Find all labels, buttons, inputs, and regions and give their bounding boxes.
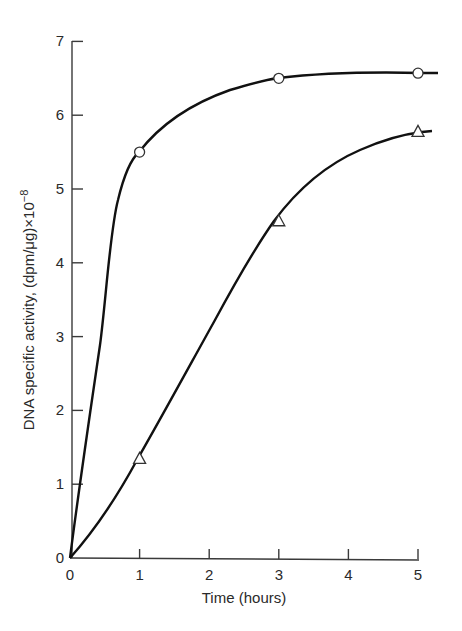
x-tick-label: 4: [344, 566, 352, 583]
triangle-series-curve: [70, 131, 432, 558]
x-tick-label: 0: [66, 566, 74, 583]
x-tick-label: 3: [275, 566, 283, 583]
circle-marker: [274, 73, 284, 83]
y-tick-label: 0: [56, 549, 64, 566]
y-tick-label: 4: [56, 254, 64, 271]
y-axis-label-main: DNA specific activity, (dpm/μg)×10: [20, 202, 37, 430]
axes: [70, 41, 419, 560]
x-tick-label: 5: [414, 566, 422, 583]
y-axis-label: DNA specific activity, (dpm/μg)×10−8: [18, 190, 37, 431]
y-tick-label: 2: [56, 401, 64, 418]
circle-marker: [135, 147, 145, 157]
y-tick-label: 7: [56, 32, 64, 49]
y-tick-label: 6: [56, 106, 64, 123]
x-tick-label: 2: [205, 566, 213, 583]
x-axis-label: Time (hours): [202, 589, 286, 606]
y-tick-label: 3: [56, 328, 64, 345]
circle-marker: [413, 68, 423, 78]
circle-series-curve: [70, 73, 438, 558]
y-axis-label-exponent: −8: [18, 190, 30, 203]
y-tick-label: 5: [56, 180, 64, 197]
x-tick-label: 1: [135, 566, 143, 583]
labels: Time (hours) DNA specific activity, (dpm…: [18, 190, 286, 606]
y-tick-label: 1: [56, 475, 64, 492]
x-ticks: 012345: [66, 549, 422, 583]
triangle-marker: [134, 452, 146, 463]
markers: [134, 68, 424, 463]
curves: [70, 73, 438, 558]
line-chart: 01234567 012345 Time (hours) DNA specifi…: [0, 0, 462, 631]
x-axis-line: [70, 558, 419, 560]
